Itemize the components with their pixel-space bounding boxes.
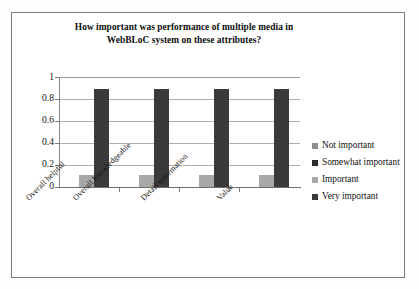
legend-swatch-icon-not-important	[312, 143, 318, 149]
y-tick-label-0-2: 0.2	[16, 159, 54, 169]
legend-item-very-important: Very important	[312, 188, 410, 205]
y-axis-labels: 1 0.8 0.6 0.4 0.2 0	[12, 13, 54, 289]
legend-label-important: Important	[322, 174, 359, 185]
legend-label-somewhat-important: Somewhat important	[322, 157, 400, 168]
chart-legend: Not important Somewhat important Importa…	[312, 137, 410, 205]
legend-swatch-icon-somewhat-important	[312, 160, 318, 166]
x-axis-line	[59, 187, 301, 188]
x-tick-mark-1	[119, 188, 120, 192]
legend-item-somewhat-important: Somewhat important	[312, 154, 410, 171]
y-tick-label-1: 1	[16, 72, 54, 82]
y-tick-label-0-6: 0.6	[16, 115, 54, 125]
legend-swatch-icon-important	[312, 177, 318, 183]
legend-item-not-important: Not important	[312, 137, 410, 154]
chart-title-line-1: How important was performance of multipl…	[75, 22, 293, 32]
chart-title-line-2: WebBLoC system on these attributes?	[34, 34, 334, 47]
bar-important-detail-information	[199, 175, 214, 187]
y-tick-label-0-8: 0.8	[16, 93, 54, 103]
x-tick-mark-2	[179, 188, 180, 192]
chart-title: How important was performance of multipl…	[34, 21, 334, 46]
x-tick-mark-3	[239, 188, 240, 192]
legend-label-very-important: Very important	[322, 191, 378, 202]
bar-very-important-detail-information	[214, 89, 229, 187]
y-tick-label-0-4: 0.4	[16, 137, 54, 147]
legend-item-important: Important	[312, 171, 410, 188]
bar-important-value	[259, 175, 274, 187]
legend-label-not-important: Not important	[322, 140, 374, 151]
legend-swatch-icon-very-important	[312, 194, 318, 200]
bar-very-important-value	[274, 89, 289, 187]
chart-frame: How important was performance of multipl…	[11, 12, 405, 278]
